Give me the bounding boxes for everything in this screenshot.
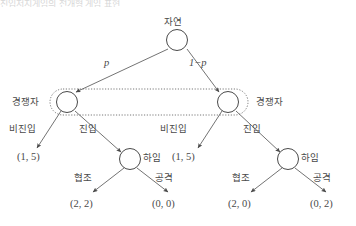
node-label-nature: 자연 [164,17,182,27]
edge-label-right-entry: 진입 [243,124,261,134]
node-competitor-left [57,92,78,113]
node-nature [167,30,188,51]
edge-label-right-attack: 공격 [313,173,331,183]
payoff-left-cooperate: (2, 2) [70,199,93,210]
edge-label-right-cooperate: 협조 [232,173,250,183]
edge-label-left-entry: 진입 [79,124,97,134]
node-label-incumbent-left: 하임 [143,153,161,163]
payoff-left-no-entry: (1, 5) [17,152,40,163]
payoff-right-attack: (0, 2) [310,199,333,210]
game-tree-figure: 진입저지게임의 전개형 게임 표현 [0,0,356,226]
edge-competitor-left-no-entry [37,111,61,148]
edge-label-left-cooperate: 협조 [74,173,92,183]
edge-competitor-right-no-entry [198,111,222,148]
edge-root-to-competitor-left [76,49,168,92]
node-label-competitor-right: 경쟁자 [256,97,283,107]
node-competitor-right [218,92,239,113]
payoff-right-cooperate: (2, 0) [228,199,251,210]
edge-incumbent-right-cooperate [251,168,282,192]
node-label-competitor-left: 경쟁자 [12,97,39,107]
probability-label-right: 1−p [189,58,207,69]
edge-incumbent-left-cooperate [93,168,124,192]
payoff-right-no-entry: (1, 5) [172,152,195,163]
node-incumbent-right [278,149,299,170]
probability-label-left: p [104,58,109,69]
edge-root-to-competitor-right [187,49,219,92]
node-incumbent-left [120,149,141,170]
edge-label-left-attack: 공격 [155,173,173,183]
tree-graphics [0,0,356,226]
edge-label-left-no-entry: 비진입 [9,124,36,134]
payoff-left-attack: (0, 0) [152,199,175,210]
edge-label-right-no-entry: 비진입 [160,124,187,134]
node-label-incumbent-right: 하임 [301,153,319,163]
